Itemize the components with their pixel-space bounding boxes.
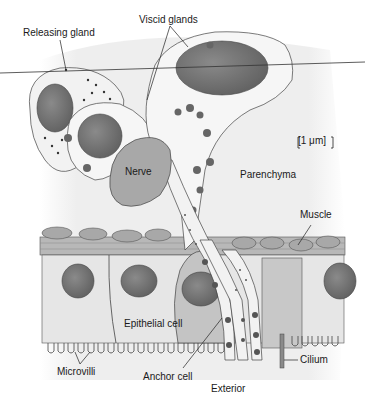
label-epithelial-cell: Epithelial cell — [124, 318, 182, 330]
label-parenchyma: Parenchyma — [240, 169, 296, 181]
label-nerve: Nerve — [125, 166, 152, 178]
cilium — [280, 334, 284, 368]
label-cilium: Cilium — [300, 354, 328, 366]
label-muscle: Muscle — [300, 209, 332, 221]
label-microvilli: Microvilli — [57, 366, 95, 378]
label-releasing-gland: Releasing gland — [23, 27, 95, 39]
label-exterior: Exterior — [211, 383, 245, 395]
label-anchor-cell: Anchor cell — [143, 371, 192, 383]
label-scale-bar: [1 μm] — [298, 135, 326, 147]
label-viscid-glands: Viscid glands — [139, 14, 198, 26]
adhesive-organ-diagram — [0, 0, 365, 401]
